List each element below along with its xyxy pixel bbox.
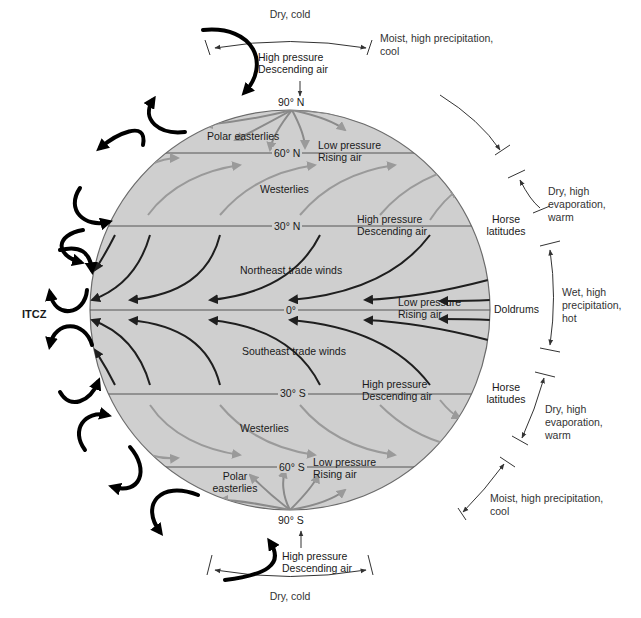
north-pole-pressure-label: High pressure Descending air — [258, 51, 328, 75]
cell-arrow — [225, 542, 275, 580]
circulation-diagram: Dry, cold High pressure Descending air 9… — [0, 0, 641, 618]
tick — [540, 241, 560, 246]
cell-arrow — [75, 188, 108, 223]
s60-pressure-label: Low pressure Rising air — [313, 456, 376, 480]
pressure-line-1: High pressure — [258, 51, 328, 63]
pressure-line-1: Low pressure — [318, 139, 381, 151]
itcz-label: ITCZ — [22, 308, 46, 320]
zone-line-1: Horse — [476, 381, 536, 393]
pressure-line-2: Rising air — [313, 468, 376, 480]
latitude-label-90s: 90° S — [278, 514, 304, 526]
n30-pressure-label: High pressure Descending air — [357, 213, 427, 237]
cell-arrow — [152, 490, 198, 532]
tick — [367, 40, 372, 55]
n60-pressure-label: Low pressure Rising air — [318, 139, 381, 163]
climate-arc — [440, 95, 500, 150]
latitude-label-30n: 30° N — [272, 220, 302, 232]
zone-line-2: latitudes — [476, 225, 536, 237]
pressure-line-2: Descending air — [282, 562, 352, 574]
cell-arrow — [203, 30, 257, 92]
latitude-label-equator: 0° — [284, 304, 298, 316]
doldrums-label: Doldrums — [494, 303, 539, 315]
tick — [540, 348, 560, 352]
north-pole-climate-label: Dry, cold — [250, 8, 330, 20]
latitude-label-60n: 60° N — [272, 147, 302, 159]
tick — [500, 457, 515, 467]
equator-pressure-label: Low pressure Rising air — [398, 296, 461, 320]
pressure-line-2: Rising air — [398, 308, 461, 320]
cell-arrow — [100, 131, 144, 148]
zone-line-2: latitudes — [476, 393, 536, 405]
latitude-label-30s: 30° S — [278, 387, 308, 399]
diagram-canvas — [0, 0, 641, 618]
south-pole-climate-label: Dry, cold — [250, 590, 330, 602]
westerlies-north-label: Westerlies — [260, 183, 309, 195]
cell-arrow — [60, 382, 98, 402]
tick — [205, 40, 210, 55]
pressure-line-2: Rising air — [318, 151, 381, 163]
zone-line-1: Horse — [476, 213, 536, 225]
north-30-climate-label: Dry, high evaporation, warm — [548, 185, 628, 224]
polar-easterlies-south-label: Polar easterlies — [210, 470, 260, 494]
tick — [508, 170, 525, 178]
s30-pressure-label: High pressure Descending air — [362, 378, 432, 402]
pressure-line-2: Descending air — [258, 63, 328, 75]
horse-latitudes-north-label: Horse latitudes — [476, 213, 536, 237]
tick — [207, 555, 212, 575]
horse-latitudes-south-label: Horse latitudes — [476, 381, 536, 405]
equator-climate-label: Wet, high precipitation, hot — [562, 286, 637, 325]
pressure-line-1: Low pressure — [398, 296, 461, 308]
climate-arc — [520, 180, 540, 208]
tick — [535, 372, 555, 377]
se-trade-winds-label: Southeast trade winds — [242, 345, 346, 357]
cell-arrow — [62, 230, 83, 262]
south-pole-pressure-label: High pressure Descending air — [282, 550, 352, 574]
pressure-line-1: High pressure — [362, 378, 432, 390]
cell-arrow — [113, 447, 141, 489]
tick — [512, 436, 528, 445]
climate-arc — [550, 250, 554, 345]
cell-arrow — [149, 100, 185, 132]
wind-line-2: easterlies — [210, 482, 260, 494]
cell-arrow — [79, 414, 107, 450]
latitude-label-90n: 90° N — [278, 96, 304, 108]
south-30-climate-label: Dry, high evaporation, warm — [545, 403, 625, 442]
cell-arrow — [50, 290, 87, 311]
westerlies-south-label: Westerlies — [240, 422, 289, 434]
pressure-line-1: Low pressure — [313, 456, 376, 468]
latitude-label-60s: 60° S — [277, 461, 307, 473]
pressure-line-1: High pressure — [282, 550, 352, 562]
north-60-climate-label: Moist, high precipitation, cool — [380, 32, 500, 58]
north-pole-climate-arc — [215, 42, 366, 49]
south-60-climate-label: Moist, high precipitation, cool — [490, 492, 605, 518]
pressure-line-1: High pressure — [357, 213, 427, 225]
polar-easterlies-north-label: Polar easterlies — [207, 130, 279, 142]
ne-trade-winds-label: Northeast trade winds — [240, 264, 342, 276]
wind-line-1: Polar — [210, 470, 260, 482]
pressure-line-2: Descending air — [357, 225, 427, 237]
cell-arrow — [50, 326, 92, 345]
tick — [368, 555, 373, 575]
pressure-line-2: Descending air — [362, 390, 432, 402]
